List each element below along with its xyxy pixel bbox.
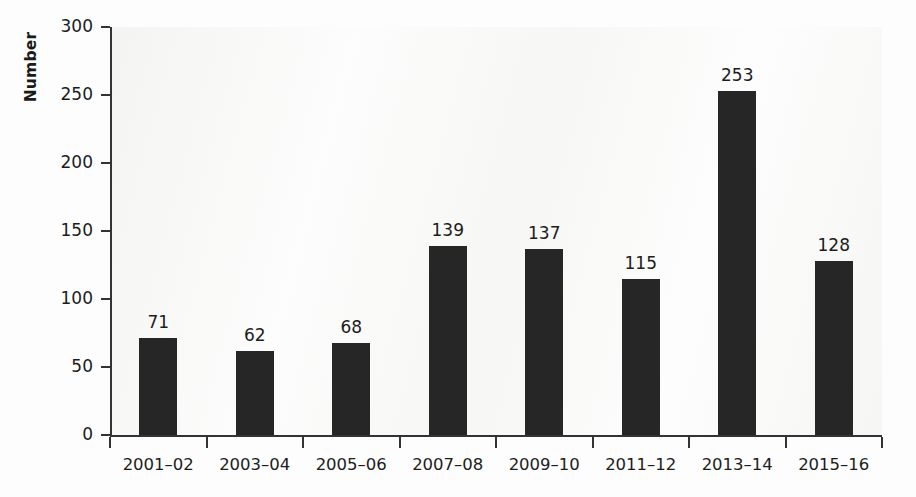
x-axis-tick-label: 2005–06 (303, 455, 400, 474)
bar-value-label: 128 (794, 235, 874, 255)
x-axis-tick (881, 437, 883, 448)
x-axis-tick-label: 2013–14 (689, 455, 786, 474)
bar (139, 338, 177, 435)
y-axis-tick (101, 230, 110, 232)
x-axis-tick (785, 437, 787, 448)
y-axis-tick-label: 250 (33, 84, 93, 104)
bar-value-label: 62 (215, 325, 295, 345)
x-axis-tick (399, 437, 401, 448)
y-axis-tick (101, 26, 110, 28)
y-axis-tick (101, 94, 110, 96)
y-axis-tick (101, 298, 110, 300)
y-axis-tick-label: 300 (33, 16, 93, 36)
x-axis-tick-label: 2011–12 (593, 455, 690, 474)
x-axis-tick (592, 437, 594, 448)
bar-value-label: 115 (601, 253, 681, 273)
x-axis-tick (688, 437, 690, 448)
bar-value-label: 68 (311, 317, 391, 337)
bar (622, 279, 660, 435)
bar (236, 351, 274, 435)
x-axis-tick-label: 2007–08 (400, 455, 497, 474)
y-axis-line (110, 27, 112, 437)
y-axis-tick-label: 200 (33, 152, 93, 172)
bar-value-label: 137 (504, 223, 584, 243)
bar (525, 249, 563, 435)
paper-texture-overlay (110, 27, 882, 436)
x-axis-tick (206, 437, 208, 448)
y-axis-tick-label: 0 (33, 424, 93, 444)
x-axis-tick-label: 2003–04 (207, 455, 304, 474)
bar-value-label: 139 (408, 220, 488, 240)
x-axis-tick (109, 437, 111, 448)
x-axis-tick-label: 2015–16 (786, 455, 883, 474)
y-axis-tick (101, 366, 110, 368)
bar-chart: Number 050100150200250300 2001–022003–04… (0, 0, 916, 497)
x-axis-tick-label: 2001–02 (110, 455, 207, 474)
bar-value-label: 253 (697, 65, 777, 85)
y-axis-tick (101, 434, 110, 436)
x-axis-tick (302, 437, 304, 448)
bar (429, 246, 467, 435)
x-axis-tick-label: 2009–10 (496, 455, 593, 474)
y-axis-tick (101, 162, 110, 164)
bar (718, 91, 756, 435)
y-axis-tick-label: 50 (33, 356, 93, 376)
bar (815, 261, 853, 435)
x-axis-tick (495, 437, 497, 448)
bar-value-label: 71 (118, 312, 198, 332)
y-axis-tick-label: 150 (33, 220, 93, 240)
bar (332, 343, 370, 435)
y-axis-tick-label: 100 (33, 288, 93, 308)
